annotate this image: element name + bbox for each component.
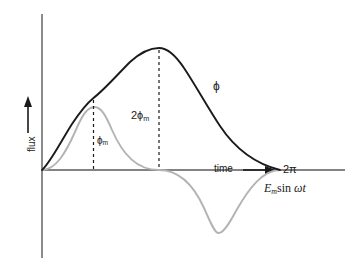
annotation-two-phi-m-symbol: 2ϕ — [131, 109, 143, 121]
annotation-phi-m-subscript: m — [103, 139, 109, 146]
flux-curve — [42, 48, 280, 170]
y-axis-label-flux: flux — [27, 136, 37, 152]
annotation-phi-m: ϕm — [97, 136, 108, 147]
annotation-sine-curve-label: Emsin ωt — [264, 182, 306, 196]
annotation-flux-curve-label: ϕ — [213, 80, 220, 92]
annotation-sin-text: sin — [277, 181, 294, 195]
annotation-omega-t: ωt — [294, 181, 306, 195]
annotation-two-phi-m-subscript: m — [143, 114, 149, 123]
flux-axis-arrow-icon — [24, 96, 32, 133]
annotation-two-phi-m: 2ϕm — [131, 110, 149, 122]
chart-canvas — [0, 0, 359, 272]
x-axis-label-time: time — [214, 164, 233, 174]
flux-voltage-waveform-figure: flux ϕm 2ϕm ϕ time 2π Emsin ωt — [0, 0, 359, 272]
x-axis-tick-label-two-pi: 2π — [283, 164, 297, 175]
